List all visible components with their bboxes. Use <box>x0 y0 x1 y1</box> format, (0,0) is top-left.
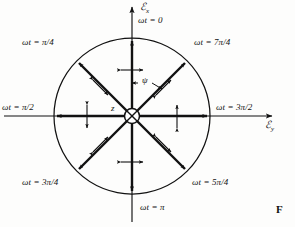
oscillation-arrow-wt-5pi-4 <box>156 137 171 152</box>
phase-label-wt-3pi-4: ωt = 3π/4 <box>22 178 58 187</box>
oscillation-arrow-wt-3pi-4 <box>93 137 108 152</box>
phase-label-wt-pi: ωt = π <box>140 203 165 212</box>
axis-label-ex: ℰx <box>140 2 149 15</box>
oscillation-arrow-wt-7pi-4 <box>156 80 171 95</box>
psi-angle-label: ψ <box>142 76 148 85</box>
phase-label-wt-pi-4: ωt = π/4 <box>22 38 54 47</box>
polarization-figure: ℰx ℰy ωt = 0 ωt = π/4 ωt = π/2 ωt = 3π/4… <box>0 0 295 227</box>
diagram-canvas <box>0 0 295 227</box>
phase-label-wt-5pi-4: ωt = 5π/4 <box>192 178 228 187</box>
z-axis-label: z <box>111 104 115 113</box>
oscillation-arrow-wt-pi-4 <box>93 80 108 95</box>
phase-label-wt-0: ωt = 0 <box>138 16 163 25</box>
phase-label-wt-3pi-2: ωt = 3π/2 <box>216 103 252 112</box>
figure-tag: F <box>276 204 283 215</box>
axis-label-ey: ℰy <box>265 120 274 133</box>
z-axis-into-page-icon <box>125 109 140 124</box>
phase-label-wt-pi-2: ωt = π/2 <box>2 103 34 112</box>
phase-label-wt-7pi-4: ωt = 7π/4 <box>194 38 230 47</box>
